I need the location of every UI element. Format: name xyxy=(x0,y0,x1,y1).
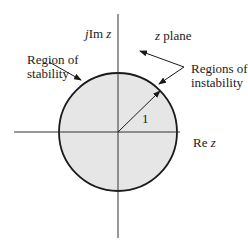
instability-label: Regions of instability xyxy=(191,62,248,90)
stability-label-line1: Region of xyxy=(27,53,79,67)
instability-label-line2: instability xyxy=(191,76,248,90)
plane-word: plane xyxy=(160,28,191,43)
instability-label-line1: Regions of xyxy=(191,62,248,76)
z-plane-diagram: jIm z z plane Region of stability Region… xyxy=(0,0,248,252)
instability-pointer-arrow-boundary xyxy=(159,67,184,84)
stability-label-line2: stability xyxy=(27,67,79,81)
instability-pointer-arrow-outer xyxy=(140,51,184,67)
z-plane-label: z plane xyxy=(155,29,191,43)
diagram-graphics xyxy=(0,0,248,252)
radius-label: 1 xyxy=(142,112,149,126)
real-z: z xyxy=(211,135,216,150)
stability-label: Region of stability xyxy=(27,53,79,81)
real-re: Re xyxy=(193,135,211,150)
imaginary-axis-label: jIm z xyxy=(85,27,111,41)
imag-z: z xyxy=(106,26,111,41)
real-axis-label: Re z xyxy=(193,136,216,150)
imag-im: Im xyxy=(89,26,107,41)
